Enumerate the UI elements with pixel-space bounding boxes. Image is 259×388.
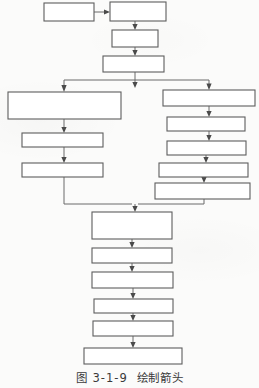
arrowhead-r1-r2 bbox=[206, 111, 211, 117]
flow-node-b5[interactable] bbox=[93, 321, 173, 336]
arrowhead-split-right bbox=[206, 84, 211, 91]
arrowhead-l1-l2 bbox=[61, 127, 66, 133]
arrowhead-r2-r3 bbox=[206, 135, 211, 141]
flow-node-b2[interactable] bbox=[92, 248, 172, 263]
flow-node-b6[interactable] bbox=[84, 348, 182, 364]
flow-node-n1[interactable] bbox=[44, 3, 94, 21]
arrowhead-n2-n3 bbox=[132, 24, 137, 30]
arrowhead-b2-b3 bbox=[129, 266, 134, 272]
flow-node-r3[interactable] bbox=[167, 141, 246, 155]
arrowhead-split-left bbox=[61, 85, 66, 92]
figure-caption-title: 绘制箭头 bbox=[137, 371, 183, 385]
arrowhead-r4-r5 bbox=[201, 177, 206, 183]
arrowhead-n3-n4 bbox=[132, 50, 137, 56]
flow-node-l3[interactable] bbox=[22, 163, 103, 177]
arrowhead-merge-b1 bbox=[132, 206, 137, 212]
arrowhead-b4-b5 bbox=[130, 315, 135, 321]
flow-node-l1[interactable] bbox=[8, 92, 121, 119]
flow-node-b4[interactable] bbox=[94, 299, 173, 313]
flow-node-l2[interactable] bbox=[22, 133, 103, 147]
arrowhead-b5-b6 bbox=[130, 342, 135, 348]
flow-node-r5[interactable] bbox=[155, 183, 250, 199]
flow-node-n2[interactable] bbox=[110, 2, 166, 21]
arrowhead-b3-b4 bbox=[130, 293, 135, 299]
flow-node-b1[interactable] bbox=[92, 212, 172, 239]
edge-r5-merge bbox=[138, 199, 204, 204]
flow-node-r2[interactable] bbox=[167, 117, 245, 131]
node-layer bbox=[8, 2, 255, 364]
arrowhead-split-center bbox=[132, 82, 137, 88]
arrowhead-b1-b2 bbox=[129, 242, 134, 248]
flow-node-n4[interactable] bbox=[103, 56, 164, 72]
flow-node-n3[interactable] bbox=[112, 30, 158, 47]
edge-l3-merge bbox=[64, 177, 132, 204]
arrowhead-l2-l3 bbox=[61, 157, 66, 163]
flowchart-diagram bbox=[0, 0, 259, 388]
figure-root: 图 3-1-9绘制箭头 bbox=[0, 0, 259, 388]
arrowhead-r3-r4 bbox=[203, 157, 208, 163]
flow-node-r4[interactable] bbox=[159, 163, 248, 177]
arrowhead-n1-n2 bbox=[104, 9, 110, 14]
figure-caption-number: 图 3-1-9 bbox=[76, 371, 128, 385]
flow-node-r1[interactable] bbox=[163, 90, 255, 106]
flow-node-b3[interactable] bbox=[92, 272, 173, 288]
figure-caption: 图 3-1-9绘制箭头 bbox=[0, 371, 259, 388]
